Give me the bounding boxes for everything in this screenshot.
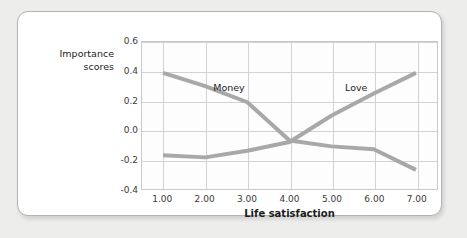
x-tick-label: 7.00 xyxy=(397,194,437,204)
y-tick-label: -0.2 xyxy=(110,155,138,165)
figure-root: Importance scores 0.60.40.20.0-0.2-0.4 M… xyxy=(0,0,467,238)
x-axis-title: Life satisfaction xyxy=(141,208,438,219)
x-tick-label: 3.00 xyxy=(227,194,267,204)
x-tick-label: 4.00 xyxy=(270,194,310,204)
series-label-money: Money xyxy=(213,81,245,92)
chart-card: Importance scores 0.60.40.20.0-0.2-0.4 M… xyxy=(17,11,442,216)
series-label-love: Love xyxy=(345,81,367,92)
y-tick-label: 0.0 xyxy=(110,125,138,135)
y-tick-label: 0.6 xyxy=(110,36,138,46)
y-tick-label: -0.4 xyxy=(110,185,138,195)
plot-area: MoneyLove xyxy=(141,41,438,190)
plot-inner: MoneyLove xyxy=(142,42,437,189)
y-axis-tick-labels: 0.60.40.20.0-0.2-0.4 xyxy=(108,41,138,190)
y-tick-label: 0.4 xyxy=(110,66,138,76)
y-tick-label: 0.2 xyxy=(110,96,138,106)
x-tick-label: 1.00 xyxy=(142,194,182,204)
x-tick-label: 5.00 xyxy=(312,194,352,204)
x-axis-tick-labels: 1.002.003.004.005.006.007.00 xyxy=(141,194,438,208)
y-axis-title: Importance scores xyxy=(36,48,114,73)
x-tick-label: 6.00 xyxy=(354,194,394,204)
series-lines xyxy=(142,42,437,189)
x-tick-label: 2.00 xyxy=(185,194,225,204)
